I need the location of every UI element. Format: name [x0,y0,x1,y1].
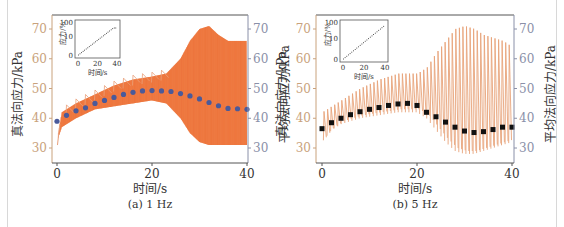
mean-point [443,120,448,125]
x-tick-label: 0 [53,167,61,181]
mean-point [415,103,420,108]
right-tick-label: 40 [519,111,534,125]
mean-point [102,98,107,103]
mean-point [434,114,439,119]
left-tick-label: 50 [296,82,311,96]
mean-point [453,125,458,130]
inset-y-label: 应力/% [58,21,67,44]
inset-x-tick: 0 [76,60,80,68]
left-tick-label: 30 [296,141,311,155]
mean-point [472,130,477,135]
inset-x-tick: 20 [93,60,102,68]
mean-point [462,129,467,134]
y-axis-label-right: 平均法向应力/kPa [543,45,558,143]
mean-point [216,103,221,108]
mean-point [339,116,344,121]
mean-point [159,88,164,93]
inset-x-label: 时间/s [88,68,108,77]
mean-point [329,120,334,125]
inset-x-tick: 20 [360,64,369,72]
inset-chart: 01010002040时间/s应力/% [323,19,389,81]
mean-point [178,91,183,96]
mean-point [83,105,88,110]
mean-point [64,113,69,118]
mean-point [386,103,391,108]
left-tick-label: 70 [296,22,311,36]
right-tick-label: 50 [519,82,534,96]
chart-panel-a: 3030404050506060707002040真法向应力/kPa平均法向应力… [10,15,292,211]
right-tick-label: 30 [519,141,534,155]
left-tick-label: 30 [32,141,47,155]
left-tick-label: 60 [32,52,47,66]
right-tick-label: 40 [253,111,268,125]
panel-caption: (b) 5 Hz [392,198,437,211]
right-tick-label: 70 [519,22,534,36]
inset-x-label: 时间/s [354,72,374,81]
left-tick-label: 40 [32,111,47,125]
mean-point [244,107,249,112]
y-axis-label-left: 真法向应力/kPa [274,51,289,137]
mean-point [225,106,230,111]
right-tick-label: 50 [253,82,268,96]
inset-x-tick: 40 [113,60,122,68]
mean-point [111,95,116,100]
right-tick-label: 60 [519,52,534,66]
left-tick-label: 40 [296,111,311,125]
inset-chart: 01010002040时间/s应力/% [58,19,121,77]
left-tick-label: 70 [32,22,47,36]
mean-point [377,105,382,110]
mean-point [405,101,410,106]
mean-point [92,101,97,106]
inset-y-label: 应力/% [323,23,332,46]
mean-point [500,125,505,130]
inset-x-tick: 40 [381,64,390,72]
inset-y-tick: 0 [69,52,73,60]
y-axis-label-left: 真法向应力/kPa [10,51,25,137]
inset-frame [340,20,388,62]
mean-point [367,107,372,112]
x-tick-label: 40 [239,167,254,181]
right-tick-label: 60 [253,52,268,66]
x-tick-label: 0 [318,167,326,181]
mean-point [491,127,496,132]
right-tick-label: 30 [253,141,268,155]
x-axis-label: 时间/s [133,182,167,196]
mean-point [187,93,192,98]
mean-point [481,129,486,134]
mean-point [358,109,363,114]
mean-point [396,101,401,106]
x-tick-label: 40 [504,167,519,181]
panel-caption: (a) 1 Hz [128,198,173,211]
figure: 3030404050506060707002040真法向应力/kPa平均法向应力… [0,0,564,227]
mean-point [320,126,325,131]
mean-point [73,108,78,113]
mean-point [121,92,126,97]
inset-x-tick: 0 [341,64,345,72]
mean-point [140,88,145,93]
left-tick-label: 50 [32,82,47,96]
left-tick-label: 60 [296,52,311,66]
inset-y-tick: 0 [334,56,338,64]
mean-point [197,96,202,101]
mean-point [149,88,154,93]
mean-point [424,110,429,115]
chart-panel-b: 3030404050506060707002040真法向应力/kPa平均法向应力… [274,15,558,211]
mean-point [54,119,59,124]
mean-point [168,89,173,94]
mean-point [130,90,135,95]
mean-point [348,112,353,117]
right-tick-label: 70 [253,22,268,36]
x-tick-label: 20 [409,167,424,181]
mean-point [235,106,240,111]
x-tick-label: 20 [144,167,159,181]
mean-point [206,100,211,105]
x-axis-label: 时间/s [398,182,432,196]
